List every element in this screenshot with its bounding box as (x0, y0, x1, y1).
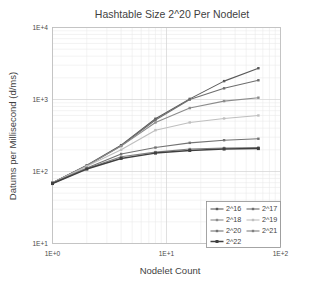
legend-item-label: 2^18 (226, 215, 241, 224)
legend-item-label: 2^21 (262, 226, 277, 235)
legend-item-label: 2^16 (226, 204, 241, 213)
data-point (189, 142, 191, 144)
data-point (257, 67, 259, 69)
legend-swatch-marker (252, 230, 254, 232)
line-chart: Hashtable Size 2^20 Per Nodelet Nodelet … (0, 0, 333, 287)
legend-swatch-marker (216, 219, 218, 221)
x-tick-label: 1E+1 (159, 250, 175, 257)
y-axis-title: Datums per Millisecond (d/ms) (7, 72, 18, 200)
legend-item-label: 2^22 (226, 237, 241, 246)
y-tick-label: 1E+3 (32, 96, 48, 103)
chart-legend[interactable]: 2^162^172^182^192^202^212^22 (207, 202, 281, 248)
data-point (223, 148, 226, 151)
data-point (257, 147, 260, 150)
legend-item-label: 2^19 (262, 215, 277, 224)
legend-swatch-marker (252, 208, 254, 210)
data-point (223, 87, 225, 89)
y-tick-label: 1E+2 (32, 168, 48, 175)
legend-swatch-marker (216, 208, 218, 210)
data-point (154, 121, 156, 123)
data-point (223, 117, 225, 119)
data-point (154, 129, 156, 131)
chart-container: Hashtable Size 2^20 Per Nodelet Nodelet … (0, 0, 333, 287)
data-point (189, 98, 191, 100)
data-point (120, 157, 123, 160)
data-point (189, 121, 191, 123)
legend-swatch-marker (252, 219, 254, 221)
data-point (51, 182, 54, 185)
legend-swatch-marker (216, 230, 218, 232)
data-point (154, 152, 157, 155)
x-tick-label: 1E+0 (45, 250, 61, 257)
data-point (257, 79, 259, 81)
legend-item-label: 2^17 (262, 204, 277, 213)
data-point (189, 107, 191, 109)
data-point (257, 114, 259, 116)
chart-title: Hashtable Size 2^20 Per Nodelet (95, 8, 249, 20)
data-point (257, 138, 259, 140)
data-point (223, 100, 225, 102)
data-point (154, 146, 156, 148)
legend-swatch-marker (216, 240, 219, 243)
data-point (85, 168, 88, 171)
y-tick-label: 1E+1 (32, 240, 48, 247)
data-point (188, 149, 191, 152)
data-point (120, 145, 122, 147)
legend-item-label: 2^20 (226, 226, 241, 235)
data-point (223, 80, 225, 82)
data-point (154, 119, 156, 121)
data-point (120, 149, 122, 151)
data-point (223, 139, 225, 141)
x-axis-title: Nodelet Count (140, 265, 201, 276)
y-tick-label: 1E+4 (32, 24, 48, 31)
x-tick-label: 1E+2 (273, 250, 289, 257)
data-point (257, 96, 259, 98)
data-point (120, 153, 122, 155)
